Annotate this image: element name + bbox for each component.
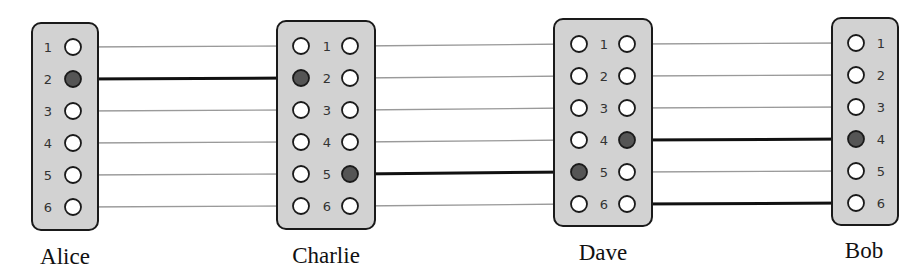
dave-port-6-left-icon[interactable] [571,196,587,212]
dave-port-3-left-icon[interactable] [571,100,587,116]
charlie-port-4-left-icon[interactable] [293,134,309,150]
alice-port-number-4: 4 [44,136,52,151]
bob-port-4-connected-icon[interactable] [848,131,864,147]
charlie-port-4-right-icon[interactable] [342,134,358,150]
wire-dave-bob-2 [635,75,848,76]
wire-alice-charlie-1 [81,46,293,47]
alice-port-4-icon[interactable] [65,135,81,151]
wire-dave-bob-3 [635,107,848,108]
charlie-port-number-2: 2 [323,71,331,86]
wire-charlie-dave-6 [358,204,571,206]
charlie-port-number-3: 3 [323,103,331,118]
dave-port-4-right-connected-icon[interactable] [619,132,635,148]
dave-port-number-3: 3 [600,101,608,116]
dave-port-4-left-icon[interactable] [571,132,587,148]
charlie-port-number-6: 6 [323,199,331,214]
bob-port-1-icon[interactable] [848,35,864,51]
dave-port-5-right-icon[interactable] [619,164,635,180]
dave-port-number-4: 4 [600,133,608,148]
wire-alice-charlie-4 [81,142,293,143]
charlie-port-3-right-icon[interactable] [342,102,358,118]
dave-port-number-1: 1 [600,37,608,52]
node-alice: 123456Alice [32,23,98,269]
wire-alice-charlie-6 [81,206,293,207]
dave-port-2-left-icon[interactable] [571,68,587,84]
alice-port-number-6: 6 [44,200,52,215]
charlie-port-number-4: 4 [323,135,331,150]
alice-panel-box [32,23,98,230]
alice-port-number-1: 1 [44,40,52,55]
alice-port-number-3: 3 [44,104,52,119]
charlie-port-number-5: 5 [323,167,331,182]
dave-port-number-2: 2 [600,69,608,84]
bob-port-5-icon[interactable] [848,163,864,179]
wire-alice-charlie-5 [81,174,293,175]
charlie-port-6-right-icon[interactable] [342,198,358,214]
charlie-label: Charlie [292,243,360,268]
dave-port-number-5: 5 [600,165,608,180]
nodes-layer: 123456Alice123456Charlie123456Dave123456… [32,18,898,269]
alice-port-2-connected-icon[interactable] [65,71,81,87]
wires-layer [81,43,848,207]
dave-port-number-6: 6 [600,197,608,212]
charlie-port-2-left-connected-icon[interactable] [293,70,309,86]
wire-charlie-dave-2 [358,76,571,78]
alice-port-1-icon[interactable] [65,39,81,55]
dave-port-6-right-icon[interactable] [619,196,635,212]
charlie-port-2-right-icon[interactable] [342,70,358,86]
node-charlie: 123456Charlie [277,21,375,268]
active-wire-alice-charlie-2 [81,78,293,79]
node-bob: 123456Bob [832,18,898,263]
bob-port-3-icon[interactable] [848,99,864,115]
wire-charlie-dave-1 [358,44,571,46]
bob-port-number-1: 1 [877,36,885,51]
connection-diagram: 123456Alice123456Charlie123456Dave123456… [0,0,923,280]
active-wire-dave-bob-4 [635,139,848,140]
charlie-port-number-1: 1 [323,39,331,54]
bob-port-2-icon[interactable] [848,67,864,83]
bob-label: Bob [845,238,883,263]
node-dave: 123456Dave [554,19,652,265]
bob-port-number-6: 6 [877,196,885,211]
wire-alice-charlie-3 [81,110,293,111]
alice-port-5-icon[interactable] [65,167,81,183]
alice-port-6-icon[interactable] [65,199,81,215]
alice-port-number-2: 2 [44,72,52,87]
wire-charlie-dave-3 [358,108,571,110]
bob-port-number-5: 5 [877,164,885,179]
wire-dave-bob-5 [635,171,848,172]
dave-port-3-right-icon[interactable] [619,100,635,116]
wire-dave-bob-1 [635,43,848,44]
dave-port-5-left-connected-icon[interactable] [571,164,587,180]
charlie-port-3-left-icon[interactable] [293,102,309,118]
bob-port-number-3: 3 [877,100,885,115]
alice-port-number-5: 5 [44,168,52,183]
bob-port-number-4: 4 [877,132,885,147]
bob-port-6-icon[interactable] [848,195,864,211]
charlie-port-1-left-icon[interactable] [293,38,309,54]
dave-port-1-left-icon[interactable] [571,36,587,52]
charlie-port-1-right-icon[interactable] [342,38,358,54]
active-wire-charlie-dave-5 [358,172,571,174]
alice-port-3-icon[interactable] [65,103,81,119]
charlie-port-5-left-icon[interactable] [293,166,309,182]
wire-charlie-dave-4 [358,140,571,142]
active-wire-dave-bob-6 [635,203,848,204]
bob-port-number-2: 2 [877,68,885,83]
charlie-port-6-left-icon[interactable] [293,198,309,214]
dave-port-2-right-icon[interactable] [619,68,635,84]
alice-label: Alice [40,244,90,269]
bob-panel-box [832,18,898,225]
charlie-port-5-right-connected-icon[interactable] [342,166,358,182]
dave-label: Dave [579,240,628,265]
dave-port-1-right-icon[interactable] [619,36,635,52]
